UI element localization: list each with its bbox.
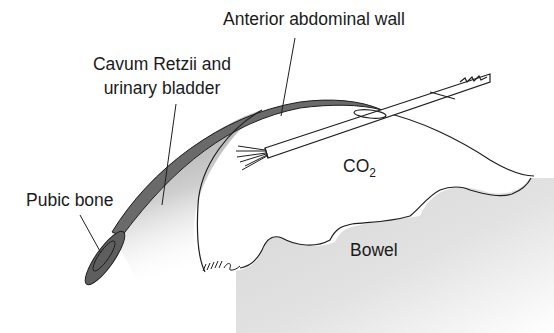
label-pubic-bone: Pubic bone: [26, 188, 114, 212]
label-cavum-line1: Cavum Retzii and: [78, 52, 246, 76]
laparoscopy-diagram: Anterior abdominal wall Cavum Retzii and…: [0, 0, 554, 333]
peritoneum-hatching: [203, 261, 240, 271]
leader-pubic-bone: [80, 215, 101, 253]
label-co2-main: CO: [343, 156, 369, 176]
bladder-region: [112, 110, 262, 285]
peritoneum-right: [382, 112, 534, 176]
label-co2: CO2: [343, 154, 376, 185]
label-cavum-line2: urinary bladder: [78, 76, 246, 100]
label-anterior-abdominal-wall: Anterior abdominal wall: [223, 7, 405, 31]
pubic-bone: [79, 227, 130, 290]
light-beam: [236, 146, 267, 170]
label-co2-subscript: 2: [369, 166, 376, 180]
diagram-graphics: [0, 0, 554, 333]
label-bowel: Bowel: [350, 238, 398, 262]
laparoscope: [265, 74, 490, 158]
label-cavum-retzii: Cavum Retzii and urinary bladder: [78, 52, 246, 100]
